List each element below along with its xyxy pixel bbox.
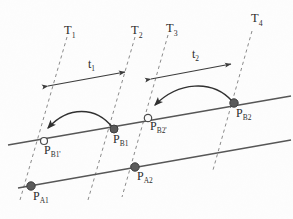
time-line-label-T2: T2 — [131, 24, 143, 39]
interval-label-t2: t2 — [192, 48, 199, 63]
point-label-PB2p: PB2' — [150, 120, 167, 135]
interval-arrow-t2 — [151, 64, 231, 79]
point-label-PB2: PB2 — [236, 107, 251, 122]
time-line-label-T3: T3 — [166, 22, 178, 37]
interval-arrow-t1 — [48, 72, 125, 86]
time-line-label-T1: T1 — [64, 24, 76, 39]
interval-label-t1: t1 — [88, 58, 95, 73]
diagram-canvas: T1 T2 T3 T4 t1 t2 PB1' PB1 PB2' PB2 PA1 … — [0, 0, 293, 219]
migration-arrow-b2 — [155, 86, 232, 105]
point-label-PB1: PB1 — [113, 133, 128, 148]
migration-arrow-b1 — [48, 112, 113, 129]
point-label-PB1p: PB1' — [44, 144, 61, 159]
point-label-PA2: PA2 — [137, 170, 153, 185]
time-line-label-T4: T4 — [251, 12, 263, 27]
point-label-PA1: PA1 — [33, 190, 49, 205]
